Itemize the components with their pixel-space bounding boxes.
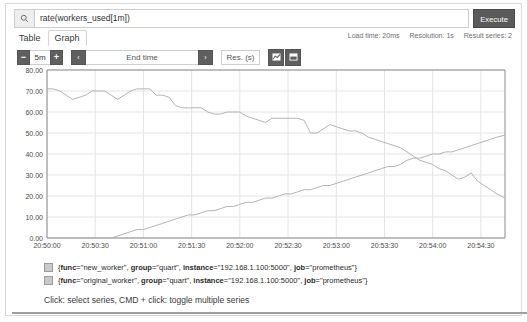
legend-label: {func="original_worker", group="quart", … [58,276,367,285]
legend-swatch [44,263,53,272]
svg-text:60.00: 60.00 [25,109,43,116]
stat-load-time: Load time: 20ms [348,32,400,39]
execute-button[interactable]: Execute [473,9,515,28]
chart-type-group [268,49,301,66]
page-frame: Execute Table Graph Load time: 20ms Reso… [5,3,522,316]
legend-item[interactable]: {func="original_worker", group="quart", … [16,274,516,287]
svg-text:50.00: 50.00 [25,130,43,137]
graph-controls: − 5m + ‹ End time › Res. (s) [17,49,513,65]
svg-text:20:54:00: 20:54:00 [419,242,446,249]
svg-text:40.00: 40.00 [25,151,43,158]
stat-resolution: Resolution: 1s [409,32,453,39]
prometheus-graph-page: Execute Table Graph Load time: 20ms Reso… [0,0,527,322]
svg-text:20:54:30: 20:54:30 [467,242,494,249]
svg-text:20:53:00: 20:53:00 [323,242,350,249]
search-icon [15,10,35,27]
line-chart-icon[interactable] [268,49,284,66]
query-stats: Load time: 20ms Resolution: 1s Result se… [340,32,512,39]
svg-text:20:51:30: 20:51:30 [178,242,205,249]
svg-text:20:50:30: 20:50:30 [82,242,109,249]
range-value[interactable]: 5m [30,50,50,65]
svg-text:20:50:00: 20:50:00 [33,242,60,249]
svg-text:80.00: 80.00 [25,67,43,74]
stat-result-series: Result series: 2 [464,32,512,39]
query-input[interactable] [35,10,468,27]
time-next-button[interactable]: › [198,50,213,65]
legend-item[interactable]: {func="new_worker", group="quart", insta… [16,261,516,274]
svg-text:20:53:30: 20:53:30 [371,242,398,249]
svg-text:20.00: 20.00 [25,193,43,200]
query-row: Execute [14,9,515,28]
graph-chart[interactable]: 0.0010.0020.0030.0040.0050.0060.0070.008… [15,66,514,256]
tab-graph[interactable]: Graph [48,30,87,46]
svg-text:20:52:30: 20:52:30 [274,242,301,249]
legend-swatch [44,276,53,285]
svg-text:30.00: 30.00 [25,172,43,179]
end-time-group: ‹ End time › [71,50,213,65]
tab-table[interactable]: Table [14,30,48,46]
range-decrease-button[interactable]: − [17,50,30,65]
svg-text:20:51:00: 20:51:00 [130,242,157,249]
svg-text:20:52:00: 20:52:00 [226,242,253,249]
range-input-group: − 5m + [17,50,63,65]
series-legend: {func="new_worker", group="quart", insta… [16,261,516,287]
time-prev-button[interactable]: ‹ [71,50,86,65]
svg-text:70.00: 70.00 [25,88,43,95]
chart-canvas[interactable]: 0.0010.0020.0030.0040.0050.0060.0070.008… [15,66,514,256]
bottom-divider [12,312,527,314]
resolution-input[interactable]: Res. (s) [221,50,260,65]
legend-hint: Click: select series, CMD + click: toggl… [44,295,249,305]
svg-text:0.00: 0.00 [29,235,43,242]
legend-label: {func="new_worker", group="quart", insta… [58,263,357,272]
stacked-chart-icon[interactable] [285,49,301,66]
range-increase-button[interactable]: + [50,50,63,65]
end-time-input[interactable]: End time [86,50,198,65]
query-input-group[interactable] [14,9,469,28]
svg-text:10.00: 10.00 [25,214,43,221]
